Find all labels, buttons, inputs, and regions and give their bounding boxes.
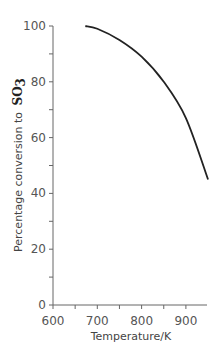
- line-chart: 020406080100 600700800900 Temperature/K …: [0, 0, 221, 351]
- y-tick-label: 100: [23, 19, 46, 33]
- conversion-curve: [85, 26, 208, 179]
- y-axis: 020406080100: [23, 19, 53, 312]
- x-tick-label: 600: [42, 314, 65, 328]
- y-axis-title: Percentage conversion to SO3: [11, 78, 28, 252]
- y-tick-label: 40: [31, 186, 46, 200]
- x-axis: 600700800900: [42, 305, 207, 328]
- x-tick-label: 900: [174, 314, 197, 328]
- y-tick-label: 80: [31, 75, 46, 89]
- x-tick-label: 800: [130, 314, 153, 328]
- y-tick-label: 60: [31, 131, 46, 145]
- y-tick-label: 0: [38, 298, 46, 312]
- x-axis-title: Temperature/K: [90, 330, 172, 343]
- x-tick-label: 700: [86, 314, 109, 328]
- y-tick-label: 20: [31, 242, 46, 256]
